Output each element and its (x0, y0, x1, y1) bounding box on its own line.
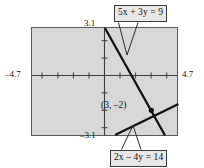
intersection-point-marker (149, 108, 154, 113)
y-axis-min-label: –3.1 (80, 130, 96, 140)
equation-line1-text: 5x + 3y = 9 (118, 7, 163, 17)
x-axis-max-label: 4.7 (182, 69, 193, 79)
equation-label-line1: 5x + 3y = 9 (114, 5, 167, 22)
graph-figure (0, 0, 204, 168)
graph-canvas (0, 0, 204, 168)
intersection-point-label: (3, –2) (101, 100, 126, 110)
x-axis-min-label: –4.7 (5, 69, 21, 79)
y-axis-max-label: 3.1 (84, 18, 95, 28)
equation-line2-text: 2x – 4y = 14 (114, 152, 163, 162)
equation-label-line2: 2x – 4y = 14 (110, 150, 167, 167)
